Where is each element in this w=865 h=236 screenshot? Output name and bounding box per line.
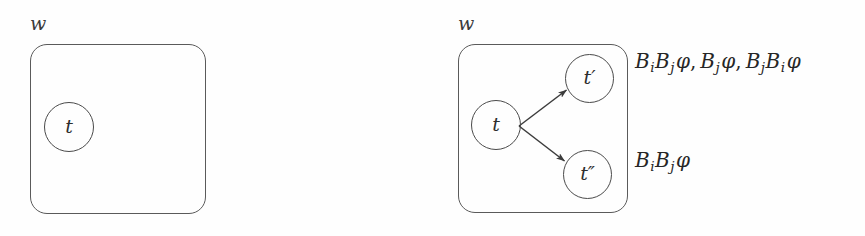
world-label-left: w bbox=[30, 14, 46, 33]
node-label-t-right: t bbox=[492, 115, 500, 134]
annotation-top-term-2: Bjφ bbox=[700, 49, 735, 73]
node-label-t-double-prime: t″ bbox=[580, 164, 595, 183]
world-label-right: w bbox=[458, 14, 474, 33]
node-label-t-left: t bbox=[65, 117, 73, 136]
node-t-left: t bbox=[44, 102, 94, 152]
annotation-comma-1: , bbox=[690, 49, 696, 73]
annotation-top-term-3: BjBiφ bbox=[746, 49, 801, 73]
panel-left: w t bbox=[0, 0, 430, 236]
node-t-prime: t′ bbox=[565, 54, 614, 103]
node-t-double-prime: t″ bbox=[563, 150, 612, 199]
annotation-top: BiBjφ,Bjφ,BjBiφ bbox=[635, 51, 801, 74]
figure-root: w t w t t′ t″ bbox=[0, 0, 865, 236]
annotation-bottom-term-1: BiBjφ bbox=[635, 148, 690, 172]
annotation-bottom: BiBjφ bbox=[635, 150, 690, 173]
annotation-comma-2: , bbox=[735, 49, 741, 73]
annotation-top-term-1: BiBjφ bbox=[635, 49, 690, 73]
node-t-right: t bbox=[471, 100, 521, 150]
panel-right: w t t′ t″ BiBjφ,Bjφ,BjBiφ BiBjφ bbox=[430, 0, 865, 236]
node-label-t-prime: t′ bbox=[584, 68, 596, 87]
